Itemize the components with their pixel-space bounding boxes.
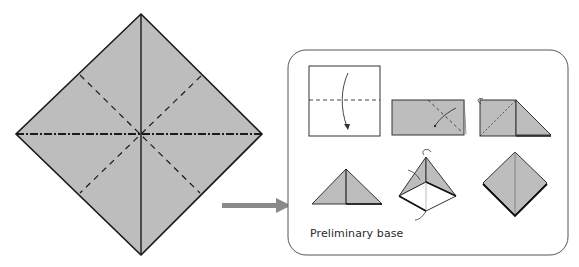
inset-caption: Preliminary base xyxy=(310,227,403,240)
step-2-rectangle xyxy=(392,100,466,135)
crease-pattern-square xyxy=(16,14,262,255)
arrow-right-icon xyxy=(222,198,291,213)
step-1-square xyxy=(309,66,380,136)
diagram-canvas xyxy=(0,0,579,267)
